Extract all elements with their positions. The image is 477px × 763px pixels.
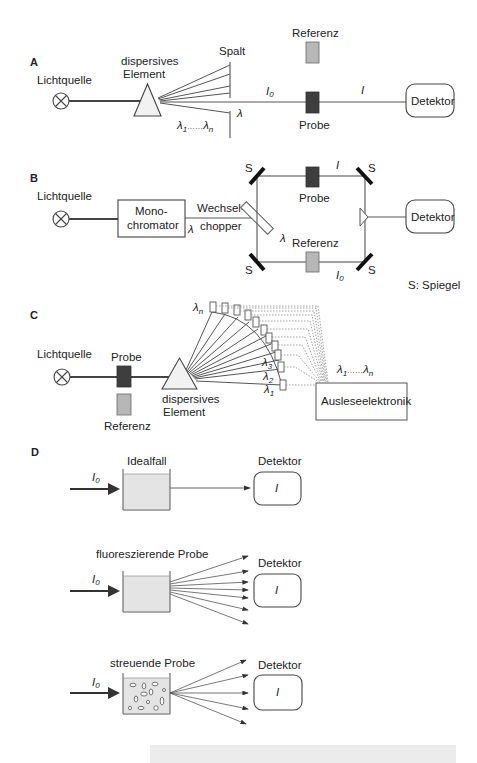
a-reference-label: Referenz	[292, 27, 339, 39]
cuvette-liquid	[123, 474, 170, 509]
caption-strip	[150, 745, 456, 763]
a-sample-label: Probe	[299, 119, 330, 131]
b-reference-label: Referenz	[292, 237, 339, 249]
mirror-label-bl: S	[245, 264, 253, 276]
b-light-source-label: Lichtquelle	[37, 190, 92, 202]
a-slit-label: Spalt	[219, 45, 246, 57]
b-mirror-legend: S: Spiegel	[408, 279, 460, 291]
d-case-title: Idealfall	[127, 455, 167, 467]
a-lambda-label: λ	[236, 107, 243, 119]
c-lambda-3: λ3	[261, 356, 273, 371]
c-sample-cuvette	[117, 366, 131, 387]
a-light-source-label: Lichtquelle	[37, 74, 92, 86]
a-dispersive-line1: dispersives	[121, 55, 179, 67]
a-lambda-range: λ1……λn	[176, 119, 214, 134]
chopper-line2: chopper	[200, 220, 242, 232]
scattered-rays	[170, 660, 248, 724]
b-lambda-out: λ	[187, 223, 194, 235]
lamp-icon	[54, 369, 70, 385]
b-reference-cuvette	[306, 252, 319, 272]
d-detector-label: Detektor	[258, 557, 302, 569]
d-case-scattering: streuende Probe I0	[70, 657, 302, 724]
prism-icon	[162, 358, 197, 389]
b-sample-cuvette	[306, 167, 319, 187]
d-incident-label: I0	[92, 676, 100, 690]
section-a: A Lichtquelle dispersives Element Spalt …	[30, 27, 455, 138]
b-beam-loop	[257, 176, 365, 262]
c-lambda-n: λn	[192, 301, 204, 316]
section-c: C Lichtquelle Probe Referenz dispersives…	[30, 301, 411, 432]
a-reference-cuvette	[306, 42, 319, 63]
b-detector-label: Detektor	[411, 211, 455, 223]
lamp-icon	[53, 93, 69, 109]
readout-electronics-label: Ausleseelektronik	[321, 395, 411, 407]
d-incident-label: I0	[92, 573, 100, 587]
c-sample-label: Probe	[111, 351, 142, 363]
a-I-label: I	[361, 84, 365, 96]
cuvette-liquid	[123, 576, 170, 611]
d-incident-label: I0	[92, 471, 100, 485]
beam-combiner-icon	[360, 208, 368, 226]
mirror-label-br: S	[368, 264, 376, 276]
a-dispersed-rays	[158, 65, 230, 113]
section-b-label: B	[30, 172, 38, 184]
lamp-icon	[53, 211, 69, 227]
fluorescence-rays	[170, 556, 248, 624]
mirror-label-tr: S	[368, 162, 376, 174]
c-dispersive-line2: Element	[163, 406, 206, 418]
chopper-line1: Wechsel-	[197, 202, 245, 214]
prism-icon	[134, 84, 161, 116]
d-case-title: fluoreszierende Probe	[96, 548, 209, 560]
c-light-source-label: Lichtquelle	[37, 348, 92, 360]
d-case-ideal: Idealfall I0 Detektor I	[70, 455, 302, 510]
b-sample-label: Probe	[299, 192, 330, 204]
a-dispersive-line2: Element	[123, 68, 166, 80]
section-c-label: C	[30, 309, 38, 321]
d-case-title: streuende Probe	[110, 657, 195, 669]
c-detector-arc	[212, 312, 282, 385]
d-case-fluorescent: fluoreszierende Probe I0 Detektor I	[70, 548, 302, 624]
b-I0-label: I0	[336, 269, 344, 283]
section-b: B Lichtquelle Mono- chromator λ Wechsel-…	[30, 159, 460, 291]
section-d: D Idealfall I0 Detektor I fluoreszierend…	[31, 446, 302, 724]
section-d-label: D	[31, 446, 39, 458]
mirror-label-tl: S	[245, 162, 253, 174]
b-I-label: I	[336, 159, 340, 171]
monochromator-line1: Mono-	[135, 205, 168, 217]
d-detector-label: Detektor	[258, 659, 302, 671]
section-a-label: A	[30, 56, 38, 68]
monochromator-line2: chromator	[127, 219, 179, 231]
c-lambda-range: λ1……λn	[336, 363, 374, 378]
c-reference-cuvette	[117, 394, 131, 415]
d-detector-label: Detektor	[258, 455, 302, 467]
spectrometer-figure: A Lichtquelle dispersives Element Spalt …	[0, 0, 477, 763]
c-reference-label: Referenz	[104, 420, 151, 432]
c-lambda-1: λ1	[263, 383, 274, 398]
a-I0-label: I0	[266, 85, 274, 99]
svg-text:λ1……λn: λ1……λn	[176, 119, 214, 134]
c-dispersive-line1: dispersives	[162, 393, 220, 405]
a-sample-cuvette	[306, 92, 319, 113]
b-lambda-inner: λ	[279, 232, 286, 244]
a-detector-label: Detektor	[411, 95, 455, 107]
